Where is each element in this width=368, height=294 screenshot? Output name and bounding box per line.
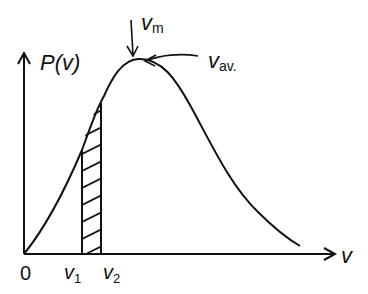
origin-label: 0 bbox=[20, 262, 31, 284]
y-axis bbox=[18, 53, 30, 254]
maxwell-distribution-diagram: P(v) v 0 v1 v2 vm vav. bbox=[0, 0, 368, 294]
v1-label: v1 bbox=[64, 261, 81, 286]
x-axis-label: v bbox=[341, 243, 354, 268]
vm-arrow bbox=[127, 20, 138, 56]
vav-label: vav. bbox=[208, 48, 237, 74]
hatched-region bbox=[78, 103, 106, 258]
x-axis bbox=[24, 248, 335, 260]
v2-label: v2 bbox=[103, 261, 120, 286]
vav-arrow bbox=[145, 55, 198, 66]
distribution-curve bbox=[24, 59, 300, 254]
y-axis-label: P(v) bbox=[40, 50, 80, 75]
vm-label: vm bbox=[141, 10, 164, 36]
